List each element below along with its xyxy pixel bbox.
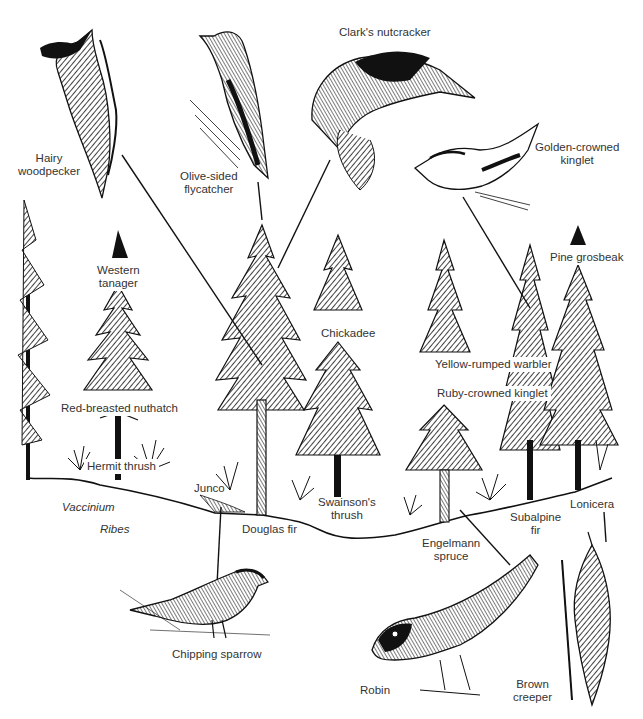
- label-line: Subalpine: [510, 511, 561, 524]
- label-line: Olive-sided: [180, 170, 238, 183]
- douglas-fir-tree: [216, 225, 306, 515]
- label-ruby-crowned-kinglet: Ruby-crowned kinglet: [434, 386, 551, 401]
- label-swainsons-thrush: Swainson's thrush: [318, 496, 376, 522]
- left-edge-conifer: [18, 200, 50, 480]
- bird-olive-sided-flycatcher: [190, 32, 268, 178]
- label-red-breasted-nuthatch: Red-breasted nuthatch: [58, 401, 181, 416]
- subalpine-fir-tree: [500, 245, 560, 500]
- label-lonicera: Lonicera: [570, 498, 614, 511]
- label-line: Western: [97, 264, 140, 277]
- label-line: creeper: [513, 691, 552, 704]
- label-line: thrush: [318, 509, 376, 522]
- label-line: fir: [510, 524, 561, 537]
- label-clarks-nutcracker: Clark's nutcracker: [339, 26, 431, 39]
- label-hairy-woodpecker: Hairy woodpecker: [18, 152, 80, 178]
- forest-bird-diagram: Hairy woodpecker Olive-sided flycatcher …: [0, 0, 643, 719]
- rock-shading: [200, 495, 245, 512]
- label-engelmann-spruce: Engelmann spruce: [422, 537, 480, 563]
- label-line: Swainson's: [318, 496, 376, 509]
- label-subalpine-fir: Subalpine fir: [510, 511, 561, 537]
- label-line: Golden-crowned: [535, 141, 619, 154]
- engelmann-spruce-tree: [406, 240, 482, 522]
- label-line: Engelmann: [422, 537, 480, 550]
- label-line: kinglet: [535, 154, 619, 167]
- label-yellow-rumped-warbler: Yellow-rumped warbler: [432, 357, 555, 372]
- bird-chipping-sparrow: [120, 570, 270, 638]
- label-golden-crowned-kinglet: Golden-crowned kinglet: [535, 141, 619, 167]
- label-line: flycatcher: [180, 183, 238, 196]
- label-line: Brown: [513, 678, 552, 691]
- label-western-tanager: Western tanager: [94, 263, 143, 291]
- bird-robin: [372, 555, 538, 695]
- label-robin: Robin: [360, 684, 390, 697]
- label-junco: Junco: [194, 482, 225, 495]
- label-douglas-fir: Douglas fir: [242, 523, 297, 536]
- label-brown-creeper: Brown creeper: [513, 678, 552, 704]
- label-chipping-sparrow: Chipping sparrow: [172, 648, 262, 661]
- label-vaccinium: Vaccinium: [62, 501, 115, 514]
- conifer-chickadee: [296, 235, 380, 497]
- bird-golden-crowned-kinglet: [415, 124, 538, 210]
- label-pine-grosbeak: Pine grosbeak: [547, 250, 627, 265]
- label-hermit-thrush: Hermit thrush: [84, 459, 159, 474]
- label-line: tanager: [97, 277, 140, 290]
- label-olive-sided-flycatcher: Olive-sided flycatcher: [180, 170, 238, 196]
- label-chickadee: Chickadee: [318, 326, 378, 341]
- bird-brown-creeper: [562, 532, 610, 705]
- label-line: Hairy: [18, 152, 80, 165]
- label-line: woodpecker: [18, 165, 80, 178]
- label-line: spruce: [422, 550, 480, 563]
- label-ribes: Ribes: [100, 523, 129, 536]
